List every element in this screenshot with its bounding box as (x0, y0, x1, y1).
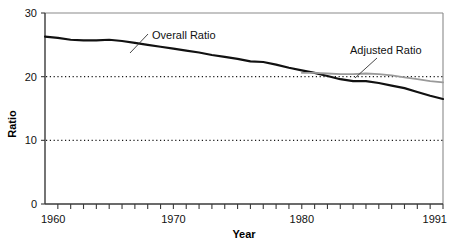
y-tick-label-10: 10 (25, 134, 37, 146)
series-label-adjusted-ratio: Adjusted Ratio (350, 44, 422, 56)
series-annotations: Overall RatioAdjusted Ratio (130, 29, 422, 78)
chart-figure: 0102030 1960197019801991 Overall RatioAd… (0, 0, 464, 248)
x-axis-title: Year (232, 228, 256, 240)
x-tick-label-1960: 1960 (41, 213, 65, 225)
x-tick-label-1970: 1970 (161, 213, 185, 225)
x-axis-ticks (58, 204, 443, 209)
y-tick-label-30: 30 (25, 7, 37, 19)
leader-line-adjusted-ratio (355, 58, 377, 78)
x-axis-tick-labels: 1960197019801991 (41, 213, 447, 225)
chart-svg: 0102030 1960197019801991 Overall RatioAd… (0, 0, 464, 248)
y-tick-label-20: 20 (25, 71, 37, 83)
x-tick-label-1980: 1980 (290, 213, 314, 225)
y-axis-tick-labels: 0102030 (25, 7, 37, 210)
y-axis-title: Ratio (6, 110, 18, 138)
x-tick-label-1991: 1991 (423, 213, 447, 225)
plot-frame (45, 13, 443, 204)
gridlines (46, 77, 443, 141)
series-label-overall-ratio: Overall Ratio (152, 29, 216, 41)
y-tick-label-0: 0 (31, 198, 37, 210)
